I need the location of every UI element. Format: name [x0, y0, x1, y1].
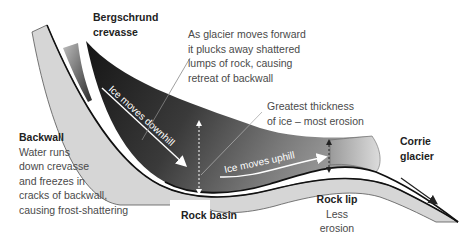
rock-lip-line-2: erosion — [309, 221, 365, 236]
backwall-line-4: cracks of backwall, — [19, 188, 128, 203]
corrie-line-1: Corrie — [400, 134, 434, 149]
corrie-glacier-label: Corrie glacier — [400, 134, 434, 163]
backwall-title: Backwall — [19, 130, 128, 145]
rock-lip-label: Rock lip Less erosion — [309, 192, 365, 236]
bergschrund-label: Bergschrund crevasse — [93, 10, 158, 39]
thickness-line-1: Greatest thickness — [267, 99, 364, 114]
plucking-line-3: lumps of rock, causing — [188, 56, 306, 71]
rock-basin-label: Rock basin — [181, 208, 237, 223]
backwall-line-1: Water runs — [19, 145, 128, 160]
corrie-line-2: glacier — [400, 149, 434, 164]
rock-lip-title: Rock lip — [309, 192, 365, 207]
backwall-line-3: and freezes in — [19, 174, 128, 189]
rock-lip-line-1: Less — [309, 207, 365, 222]
thickness-label: Greatest thickness of ice – most erosion — [267, 99, 364, 128]
bergschrund-line-2: crevasse — [93, 25, 158, 40]
thickness-line-2: of ice – most erosion — [267, 114, 364, 129]
bergschrund-line-1: Bergschrund — [93, 10, 158, 25]
backwall-label: Backwall Water runs down crevasse and fr… — [19, 130, 128, 217]
plucking-line-1: As glacier moves forward — [188, 27, 306, 42]
plucking-label: As glacier moves forward it plucks away … — [188, 27, 306, 85]
backwall-line-5: causing frost-shattering — [19, 203, 128, 218]
plucking-line-4: retreat of backwall — [188, 71, 306, 86]
plucking-line-2: it plucks away shattered — [188, 42, 306, 57]
backwall-line-2: down crevasse — [19, 159, 128, 174]
